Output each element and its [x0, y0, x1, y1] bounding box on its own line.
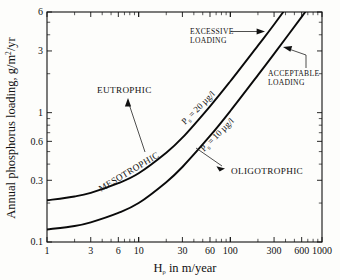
note-label-excessive-line1: EXCESSIVE [190, 27, 234, 36]
phosphorus-loading-chart: 1361030601003006001000 0.10.30.6136 EUTR… [0, 0, 340, 280]
note-label-excessive-line2: LOADING [190, 36, 227, 45]
zone-label-oligotrophic: OLIGOTROPHIC [231, 166, 303, 176]
chart-figure: 1361030601003006001000 0.10.30.6136 EUTR… [0, 0, 340, 280]
x-tick-label: 1000 [312, 245, 332, 256]
x-tick-label: 100 [223, 245, 238, 256]
y-tick-label: 3 [38, 45, 43, 56]
note-label-acceptable-line1: ACCEPTABLE [268, 69, 319, 78]
x-tick-label: 300 [267, 245, 282, 256]
x-tick-label: 600 [294, 245, 309, 256]
x-tick-label: 10 [134, 245, 144, 256]
y-tick-label: 0.3 [31, 175, 44, 186]
x-tick-label: 30 [177, 245, 187, 256]
y-tick-label: 0.1 [31, 236, 44, 247]
note-label-acceptable-line2: LOADING [268, 78, 305, 87]
x-tick-label: 60 [205, 245, 215, 256]
zone-label-eutrophic: EUTROPHIC [97, 85, 152, 95]
y-tick-label: 1 [38, 107, 43, 118]
y-axis-title: Annual phosphorus loading, g/m2/yr [4, 36, 18, 218]
x-tick-label: 1 [45, 245, 50, 256]
y-tick-label: 6 [38, 6, 43, 17]
figure-background [0, 0, 340, 280]
x-tick-label: 3 [88, 245, 93, 256]
y-tick-label: 0.6 [31, 136, 44, 147]
x-tick-label: 6 [116, 245, 121, 256]
